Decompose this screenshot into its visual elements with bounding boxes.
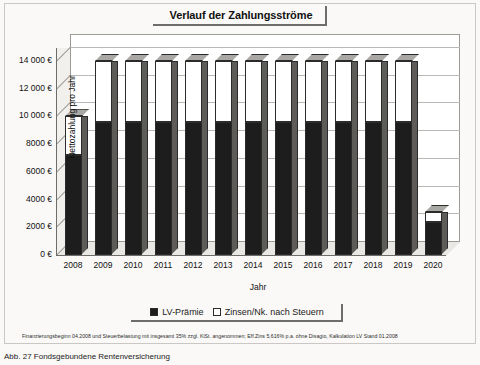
bar-segment-zinsen[interactable] [95, 61, 112, 122]
bar-2018[interactable] [365, 61, 382, 255]
bar-side-face [321, 61, 328, 255]
y-tick-label: 2000 € [0, 221, 52, 231]
bar-side-face [261, 61, 268, 255]
legend: LV-Prämie Zinsen/Nk. nach Steuern [126, 303, 348, 321]
bar-segment-lv-praemie[interactable] [395, 122, 412, 255]
x-axis-line [56, 255, 446, 256]
bar-segment-zinsen[interactable] [275, 61, 292, 122]
bar-side-face [231, 61, 238, 255]
y-axis-title: Nettozahlung pro Jahr [67, 57, 77, 177]
figure-border-bottom [4, 343, 476, 344]
bar-side-face [351, 61, 358, 255]
bar-segment-lv-praemie[interactable] [305, 122, 322, 255]
filled-square-icon [150, 308, 158, 316]
x-tick-label: 2020 [413, 260, 453, 270]
bar-segment-zinsen[interactable] [215, 61, 232, 122]
bar-segment-lv-praemie[interactable] [125, 122, 142, 255]
chart-title-end-tick [325, 6, 327, 26]
bar-side-face [441, 212, 448, 255]
bar-segment-lv-praemie[interactable] [185, 122, 202, 255]
legend-underline [131, 320, 343, 322]
y-axis-line [56, 48, 57, 256]
bar-segment-zinsen[interactable] [185, 61, 202, 122]
figure-container: Verlauf der Zahlungsströme 0 €2000 €4000… [0, 0, 480, 365]
bar-2014[interactable] [245, 61, 262, 255]
bar-segment-zinsen[interactable] [155, 61, 172, 122]
y-tick-label: 4000 € [0, 194, 52, 204]
empty-square-icon [213, 308, 221, 316]
plot-area: 0 €2000 €4000 €6000 €8000 €10 000 €12 00… [56, 34, 460, 256]
bar-2012[interactable] [185, 61, 202, 255]
bar-segment-lv-praemie[interactable] [275, 122, 292, 255]
chart-title-container: Verlauf der Zahlungsströme [148, 4, 334, 26]
legend-end-tick [341, 304, 343, 322]
bar-side-face [171, 61, 178, 255]
x-axis-title: Jahr [56, 282, 460, 292]
bar-segment-lv-praemie[interactable] [95, 122, 112, 255]
y-tick-label: 6000 € [0, 166, 52, 176]
bar-segment-lv-praemie[interactable] [215, 122, 232, 255]
figure-border-right [475, 3, 476, 343]
bar-2013[interactable] [215, 61, 232, 255]
bar-segment-zinsen[interactable] [425, 212, 442, 222]
bar-side-face [381, 61, 388, 255]
chart-title: Verlauf der Zahlungsströme [170, 9, 313, 21]
y-tick-label: 14 000 € [0, 55, 52, 65]
legend-item-zinsen: Zinsen/Nk. nach Steuern [213, 307, 324, 317]
figure-caption: Abb. 27 Fondsgebundene Rentenversicherun… [4, 352, 474, 365]
bar-2010[interactable] [125, 61, 142, 255]
legend-label-lv-praemie: LV-Prämie [162, 307, 203, 317]
bar-side-face [81, 116, 88, 255]
bar-segment-zinsen[interactable] [335, 61, 352, 122]
footnote-text: Finanzierungsbeginn 04.2008 und Steuerbe… [22, 332, 462, 340]
bar-2016[interactable] [305, 61, 322, 255]
y-tick-label: 10 000 € [0, 110, 52, 120]
bar-2017[interactable] [335, 61, 352, 255]
chart-title-underline [153, 24, 325, 26]
bar-side-face [201, 61, 208, 255]
legend-item-lv-praemie: LV-Prämie [150, 307, 203, 317]
bar-segment-zinsen[interactable] [365, 61, 382, 122]
bar-side-face [141, 61, 148, 255]
bar-2009[interactable] [95, 61, 112, 255]
bar-2020[interactable] [425, 212, 442, 255]
y-tick-label: 0 € [0, 249, 52, 259]
bar-2015[interactable] [275, 61, 292, 255]
y-tick-label: 8000 € [0, 138, 52, 148]
bar-segment-zinsen[interactable] [305, 61, 322, 122]
bar-segment-lv-praemie[interactable] [425, 222, 442, 255]
gridline [70, 47, 460, 48]
bar-side-face [291, 61, 298, 255]
bar-segment-zinsen[interactable] [395, 61, 412, 122]
bar-segment-lv-praemie[interactable] [335, 122, 352, 255]
bar-side-face [411, 61, 418, 255]
bar-segment-lv-praemie[interactable] [155, 122, 172, 255]
bar-segment-zinsen[interactable] [245, 61, 262, 122]
bar-segment-zinsen[interactable] [125, 61, 142, 122]
bar-segment-lv-praemie[interactable] [365, 122, 382, 255]
bar-2019[interactable] [395, 61, 412, 255]
bar-2011[interactable] [155, 61, 172, 255]
legend-label-zinsen: Zinsen/Nk. nach Steuern [225, 307, 324, 317]
bar-side-face [111, 61, 118, 255]
bar-segment-lv-praemie[interactable] [245, 122, 262, 255]
y-tick-label: 12 000 € [0, 83, 52, 93]
